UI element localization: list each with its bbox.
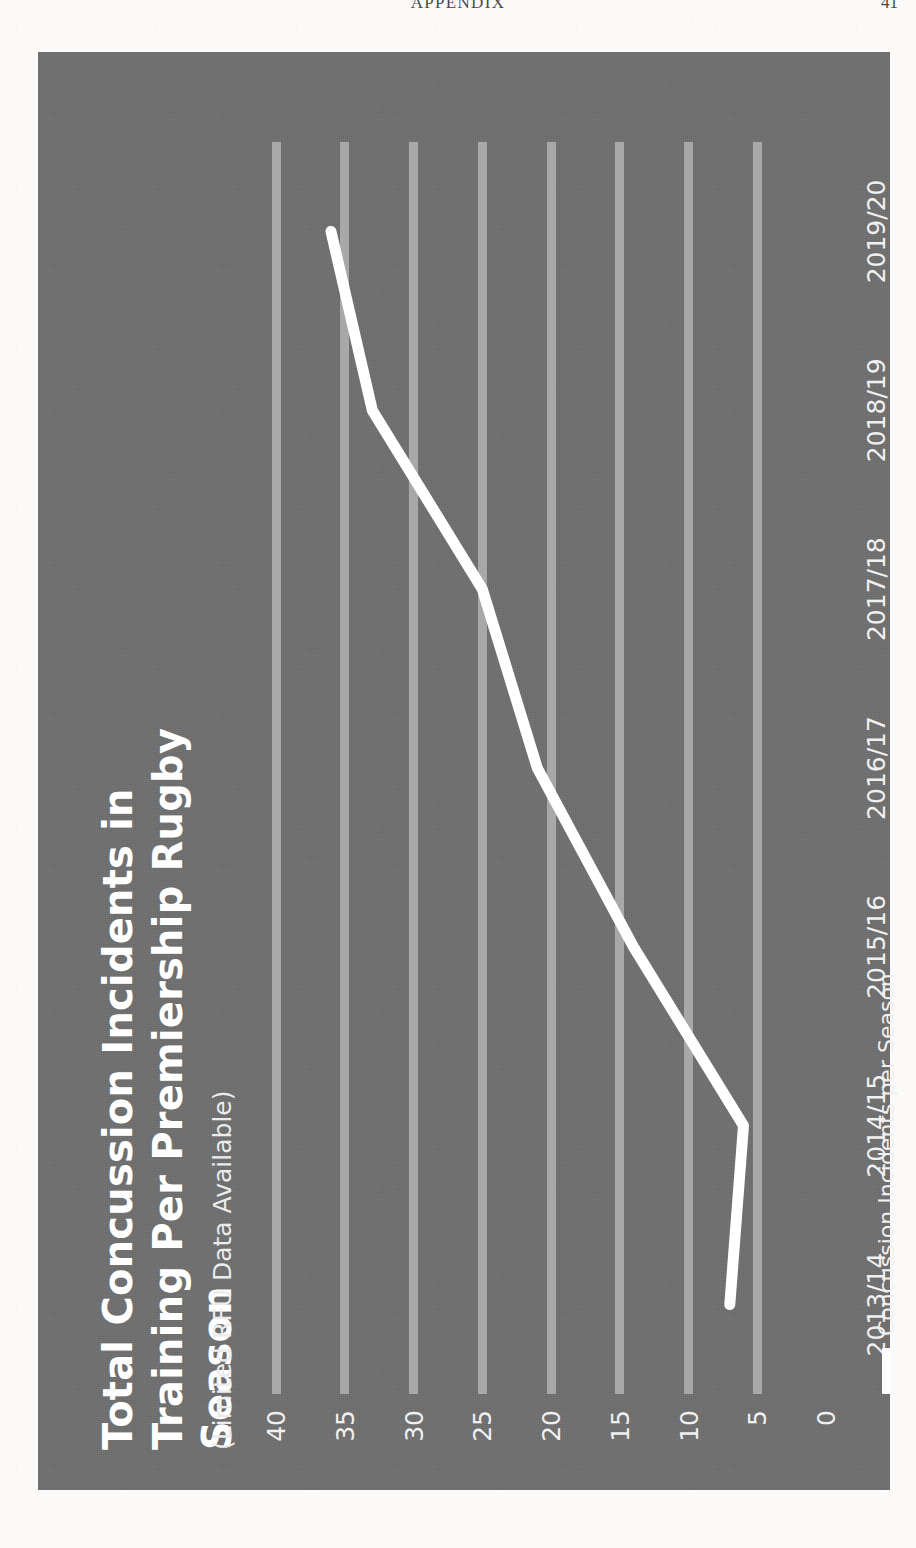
series-layer xyxy=(276,142,826,1394)
plot-area: 0510152025303540 2013/142014/152015/1620… xyxy=(276,142,826,1394)
series-line-concussion-incidents xyxy=(331,231,744,1304)
y-axis-tick-label: 15 xyxy=(605,1394,634,1442)
line-chart-figure: Total Concussion Incidents in Training P… xyxy=(38,52,890,1490)
x-axis-tick-label: 2016/17 xyxy=(862,716,891,820)
y-axis-tick-label: 5 xyxy=(743,1394,772,1426)
legend-label: Concussion Incidents per Season xyxy=(874,973,899,1336)
y-axis-tick-label: 10 xyxy=(674,1394,703,1442)
y-axis-tick-label: 35 xyxy=(330,1394,359,1442)
y-axis-tick-label: 40 xyxy=(262,1394,291,1442)
page-number: 41 xyxy=(881,0,898,13)
chart-subtitle: (Limited RFU Data Available) xyxy=(208,690,237,1450)
x-axis-tick-label: 2018/19 xyxy=(862,358,891,462)
x-axis-tick-label: 2017/18 xyxy=(862,537,891,641)
running-head: APPENDIX 41 xyxy=(0,0,916,15)
y-axis-tick-label: 25 xyxy=(468,1394,497,1442)
running-head-title: APPENDIX xyxy=(0,0,916,13)
x-axis-tick-label: 2019/20 xyxy=(862,180,891,284)
chart-legend: Concussion Incidents per Season xyxy=(874,973,899,1394)
y-axis-tick-label: 30 xyxy=(399,1394,428,1442)
y-axis-tick-label: 0 xyxy=(812,1394,841,1426)
chart-panel: Total Concussion Incidents in Training P… xyxy=(38,52,890,1490)
y-axis-tick-label: 20 xyxy=(537,1394,566,1442)
legend-line-swatch-icon xyxy=(882,1348,891,1394)
rotated-figure-stage: Total Concussion Incidents in Training P… xyxy=(38,52,890,1490)
